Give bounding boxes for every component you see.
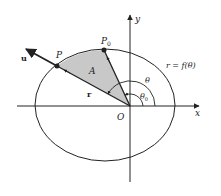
origin-label: O xyxy=(117,112,125,122)
point-p-label: P xyxy=(55,50,63,60)
point-p0-label: P0 xyxy=(100,36,111,47)
area-label: A xyxy=(88,66,96,76)
point-p xyxy=(55,64,60,69)
angle-theta-label: θ xyxy=(145,76,150,85)
polar-area-diagram: x y O P P0 A r u θ θ0 r = f(θ) xyxy=(0,0,221,196)
point-p0 xyxy=(102,48,107,53)
shaded-area-a xyxy=(57,50,130,106)
y-axis-label: y xyxy=(134,14,141,24)
curve-equation-label: r = f(θ) xyxy=(166,61,196,70)
angle-theta0-label: θ0 xyxy=(140,92,148,102)
vector-u xyxy=(26,49,57,66)
vector-r-label: r xyxy=(87,89,92,99)
x-axis-label: x xyxy=(195,108,200,118)
vector-u-label: u xyxy=(21,53,27,63)
